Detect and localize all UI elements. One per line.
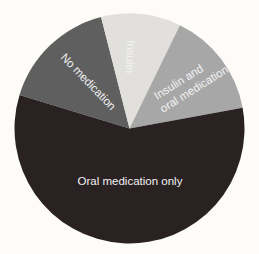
label-insulin: Insulin — [124, 40, 137, 74]
label-oral-medication-only: Oral medication only — [78, 175, 183, 187]
pie-chart: No medication Insulin Insulin and oral m… — [0, 0, 259, 254]
